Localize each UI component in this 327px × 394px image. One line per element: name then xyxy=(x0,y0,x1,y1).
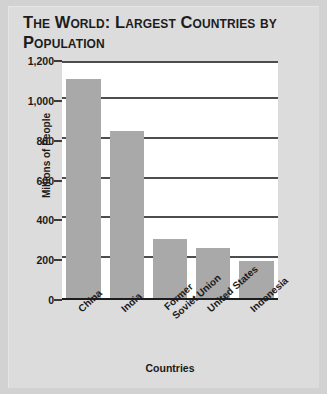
y-axis-tick-mark xyxy=(54,180,62,182)
y-axis-tick-label: 0 xyxy=(20,294,54,306)
y-axis-tick-mark xyxy=(54,219,62,221)
y-axis-tick-label: 1,200 xyxy=(20,55,54,67)
x-axis-title: Countries xyxy=(62,362,278,374)
y-axis-tick-mark xyxy=(54,60,62,62)
x-axis-tick-labels: ChinaIndiaFormerSoviet UnionUnited State… xyxy=(55,302,320,360)
chart-title: The World: Largest Countries by Populati… xyxy=(23,12,308,52)
bar xyxy=(66,79,101,298)
plot-area xyxy=(62,61,278,300)
y-axis-tick-mark xyxy=(54,140,62,142)
y-axis-tick-label: 400 xyxy=(20,214,54,226)
y-axis-tick-mark xyxy=(54,259,62,261)
y-axis-tick-label: 200 xyxy=(20,254,54,266)
y-axis-tick-mark xyxy=(54,299,62,301)
y-axis-title: Millions of People xyxy=(41,96,52,216)
chart-figure: The World: Largest Countries by Populati… xyxy=(0,0,327,394)
bar xyxy=(110,131,145,298)
y-axis-tick-mark xyxy=(54,100,62,102)
